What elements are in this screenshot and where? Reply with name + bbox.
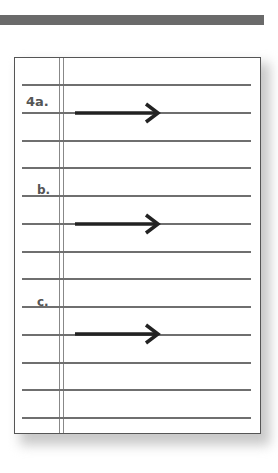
- item-label-c: c.: [37, 295, 49, 309]
- arrow-right-icon: [74, 323, 162, 345]
- margin-line-left: [59, 58, 60, 433]
- arrow-right-icon: [74, 102, 162, 124]
- rule-line: [22, 195, 251, 197]
- item-label-b: b.: [37, 183, 50, 197]
- rule-line: [22, 306, 251, 308]
- rule-line: [22, 362, 251, 364]
- rule-line: [22, 84, 251, 86]
- arrow-right-icon: [74, 213, 162, 235]
- rule-line: [22, 278, 251, 280]
- rule-line: [22, 389, 251, 391]
- item-label-4a: 4a.: [26, 94, 49, 109]
- margin-line-right: [63, 58, 64, 433]
- lined-paper: 4a. b. c.: [14, 57, 261, 434]
- header-bar: [0, 15, 264, 25]
- rule-line: [22, 251, 251, 253]
- rule-line: [22, 140, 251, 142]
- rule-line: [22, 417, 251, 419]
- rule-line: [22, 167, 251, 169]
